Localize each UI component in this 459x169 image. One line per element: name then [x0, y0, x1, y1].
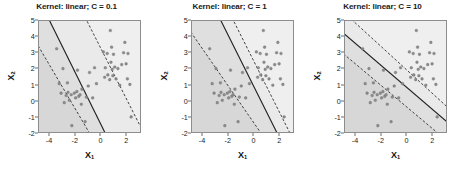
data-point: [273, 63, 276, 66]
data-point: [410, 66, 413, 69]
data-point: [424, 84, 427, 87]
x-tick-label: -2: [224, 136, 230, 145]
y-tick-label: -1: [28, 112, 34, 121]
y-tick-label: 4: [337, 32, 341, 41]
data-point: [240, 85, 243, 88]
data-point: [229, 69, 232, 72]
data-point: [255, 51, 258, 54]
data-point: [87, 85, 90, 88]
data-point: [241, 71, 244, 74]
data-point: [66, 82, 69, 85]
data-point: [263, 46, 266, 49]
data-point: [416, 61, 419, 64]
data-point: [264, 68, 267, 71]
x-axis-label: X1: [344, 150, 447, 160]
data-point: [248, 82, 251, 85]
data-point: [386, 103, 389, 106]
x-tick-label: -4: [199, 136, 205, 145]
data-point: [265, 74, 268, 77]
svm-decision-boundary-figure: Kernel: linear; C = 0.1543210-1-2-4-202X…: [0, 0, 459, 169]
data-point: [70, 93, 73, 96]
y-tick-label: 1: [31, 80, 35, 89]
data-point: [391, 96, 394, 99]
y-axis-label: X2: [159, 71, 169, 80]
data-point: [432, 78, 435, 81]
data-point: [126, 78, 129, 81]
plot-area: [191, 20, 294, 133]
y-tick-label: 1: [337, 80, 341, 89]
data-point: [415, 29, 418, 32]
y-tick-label: -1: [334, 112, 340, 121]
data-point: [112, 74, 115, 77]
data-point: [68, 99, 71, 102]
data-point: [208, 47, 211, 50]
data-point: [390, 120, 393, 123]
x-axis-label-subscript: 1: [91, 154, 94, 160]
data-point: [106, 74, 109, 77]
data-point: [380, 97, 383, 100]
x-tick-label: -4: [352, 136, 358, 145]
data-point: [88, 71, 91, 74]
y-axis-label-subscript: 2: [163, 71, 169, 74]
y-tick-mark: [35, 133, 38, 134]
data-point: [376, 93, 379, 96]
data-point: [127, 52, 130, 55]
data-point: [71, 124, 74, 127]
data-point: [435, 83, 438, 86]
data-point: [95, 82, 98, 85]
data-point: [270, 67, 273, 70]
data-point: [103, 76, 106, 79]
y-tick-label: 5: [184, 16, 188, 25]
data-point: [364, 82, 367, 85]
y-tick-label: 4: [184, 32, 188, 41]
data-point: [428, 51, 431, 54]
data-point: [80, 103, 83, 106]
y-tick-label: 3: [184, 48, 188, 57]
y-axis-label-subscript: 2: [10, 71, 16, 74]
data-point: [244, 97, 247, 100]
data-point: [233, 103, 236, 106]
data-point: [401, 82, 404, 85]
y-tick-mark: [341, 84, 344, 85]
data-point: [279, 78, 282, 81]
y-tick-label: 0: [31, 96, 35, 105]
data-point: [58, 82, 61, 85]
data-point: [436, 116, 439, 119]
x-tick-mark: [406, 133, 407, 136]
y-tick-mark: [341, 68, 344, 69]
data-point: [60, 92, 63, 95]
y-tick-mark: [188, 84, 191, 85]
data-point: [85, 96, 88, 99]
data-point: [226, 92, 229, 95]
x-tick-label: 0: [251, 136, 255, 145]
y-tick-label: 0: [184, 96, 188, 105]
data-point: [408, 51, 411, 54]
data-point: [371, 94, 374, 97]
data-point: [393, 85, 396, 88]
data-point: [417, 68, 420, 71]
x-tick-mark: [74, 133, 75, 136]
data-point: [120, 63, 123, 66]
y-tick-mark: [35, 68, 38, 69]
data-point: [104, 66, 107, 69]
data-point: [259, 74, 262, 77]
data-point: [118, 84, 121, 87]
y-tick-mark: [341, 36, 344, 37]
data-point: [278, 62, 281, 65]
data-point: [238, 96, 241, 99]
panel-1: Kernel: linear; C = 0.1543210-1-2-4-202X…: [0, 0, 153, 169]
y-tick-label: 2: [337, 64, 341, 73]
data-point: [84, 120, 87, 123]
x-tick-mark: [201, 133, 202, 136]
panel-2: Kernel: linear; C = 1543210-1-2-4-202X1X…: [153, 0, 306, 169]
data-point: [263, 61, 266, 64]
data-point: [430, 41, 433, 44]
x-tick-label: -2: [377, 136, 383, 145]
data-point: [234, 88, 237, 91]
y-tick-mark: [188, 100, 191, 101]
x-tick-label: -4: [46, 136, 52, 145]
y-tick-mark: [35, 52, 38, 53]
data-point: [414, 78, 417, 81]
y-tick-label: 3: [337, 48, 341, 57]
x-tick-mark: [380, 133, 381, 136]
